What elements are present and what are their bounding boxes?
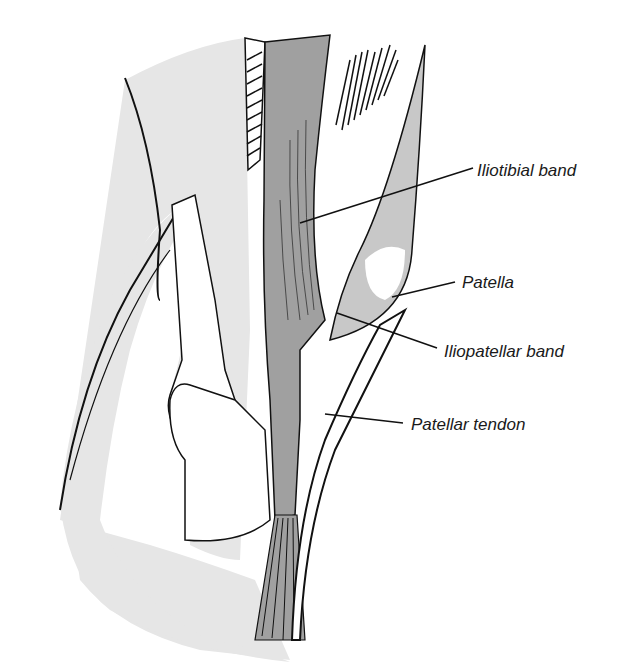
knee-anatomy-diagram: Iliotibial band Patella Iliopatellar ban… [0, 0, 634, 666]
tibia [170, 384, 270, 541]
label-iliopatellar-band: Iliopatellar band [444, 343, 564, 360]
knee-illustration [0, 0, 634, 666]
label-patellar-tendon: Patellar tendon [411, 416, 525, 433]
iliotibial-band-shape [264, 35, 330, 520]
label-patella: Patella [462, 274, 514, 291]
label-iliotibial-band: Iliotibial band [477, 162, 576, 179]
patellar-tendon-shape [292, 310, 405, 640]
